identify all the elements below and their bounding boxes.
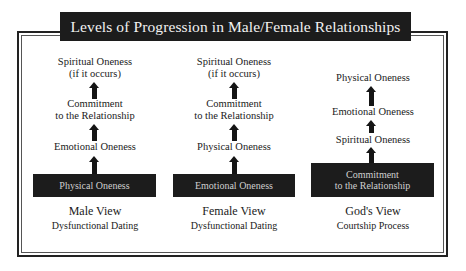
arrow-up-icon	[89, 82, 100, 99]
column-female-view: Spiritual Oneness (if it occurs) Commitm…	[159, 0, 309, 271]
caption-subtitle: Dysfunctional Dating	[20, 220, 170, 231]
base-level-label: Emotional Oneness	[195, 180, 273, 191]
caption-title: Female View	[159, 204, 309, 219]
base-level-box: Commitment to the Relationship	[311, 163, 434, 197]
arrow-up-icon	[229, 124, 240, 141]
base-level-box: Emotional Oneness	[173, 174, 295, 197]
level-label: Commitment	[20, 98, 170, 110]
level-label: Spiritual Oneness	[298, 134, 448, 146]
base-level-label: to the Relationship	[335, 180, 411, 191]
level-label: Emotional Oneness	[298, 106, 448, 118]
level-label: to the Relationship	[20, 110, 170, 122]
arrow-up-icon	[366, 147, 377, 163]
caption-subtitle: Dysfunctional Dating	[159, 220, 309, 231]
level-label: Commitment	[159, 98, 309, 110]
level-label: Spiritual Oneness	[159, 56, 309, 68]
column-gods-view: Physical Oneness Emotional Oneness Spiri…	[298, 0, 448, 271]
level-label: Spiritual Oneness	[20, 56, 170, 68]
caption-subtitle: Courtship Process	[298, 220, 448, 231]
level-label: Emotional Oneness	[20, 141, 170, 153]
base-level-box: Physical Oneness	[33, 174, 156, 197]
base-level-label: Physical Oneness	[59, 180, 129, 191]
caption-title: God's View	[298, 204, 448, 219]
level-label-note: (if it occurs)	[159, 68, 309, 80]
arrow-up-icon	[229, 82, 240, 99]
arrow-up-icon	[89, 156, 100, 175]
column-male-view: Spiritual Oneness (if it occurs) Commitm…	[20, 0, 170, 271]
arrow-up-icon	[89, 124, 100, 141]
level-label: Physical Oneness	[298, 72, 448, 84]
arrow-up-icon	[229, 156, 240, 175]
caption-title: Male View	[20, 204, 170, 219]
level-label: Physical Oneness	[159, 141, 309, 153]
base-level-label: Commitment	[346, 169, 399, 180]
level-label-note: (if it occurs)	[20, 68, 170, 80]
arrow-up-icon	[366, 86, 377, 106]
level-label: to the Relationship	[159, 110, 309, 122]
arrow-up-icon	[366, 120, 377, 133]
